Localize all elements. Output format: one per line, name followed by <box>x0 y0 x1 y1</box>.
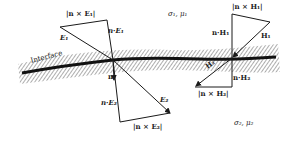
n-cross-E1-label: |n × E₁| <box>66 10 95 17</box>
region-lower-label: σ₂, μ₂ <box>234 120 253 127</box>
H1-label: H₁ <box>261 32 271 39</box>
n-dot-H2-label: n·H₂ <box>233 74 250 81</box>
n-cross-E2-label: |n × E₂| <box>133 123 162 130</box>
E2-label: E₂ <box>160 96 168 103</box>
normal-n-label: n <box>108 73 113 80</box>
region-upper-label: σ₁, μ₁ <box>168 11 187 18</box>
n-dot-E1-label: n·E₁ <box>108 27 124 34</box>
n-cross-H1-label: |n × H₁| <box>232 3 263 10</box>
boundary-diagram: σ₁, μ₁ σ₂, μ₂ Interface |n × E₁| n·E₁ E₁… <box>0 0 292 142</box>
n-cross-H2-label: |n × H₂| <box>198 90 229 97</box>
n-dot-H1-label: n·H₁ <box>212 29 229 36</box>
E1-label: E₁ <box>60 34 68 41</box>
n-dot-E2-label: n·E₂ <box>101 99 117 106</box>
